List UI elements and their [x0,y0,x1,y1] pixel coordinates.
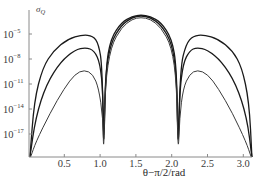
y-tick-label: 10−8 [3,52,20,65]
y-ticks: 10−510−810−1110−1410−17 [3,27,32,140]
chart: 10−510−810−1110−1410−17 0.51.01.52.02.53… [0,0,259,181]
x-tick-label: 0.5 [58,158,71,169]
x-axis-title: θ−π/2/rad [143,166,186,178]
y-tick-label: 10−14 [3,102,24,115]
x-tick-label: 1.0 [94,158,107,169]
x-tick-label: 2.5 [201,158,214,169]
y-tick-label: 10−11 [3,77,23,90]
x-tick-label: 3.0 [237,158,250,169]
series-line-2 [30,16,252,157]
series-line-3 [31,18,252,157]
y-tick-label: 10−5 [3,27,20,40]
series-line-1 [30,15,252,157]
y-tick-label: 10−17 [3,127,24,140]
plot-area [30,15,252,157]
x-tick-label: 1.5 [129,158,142,169]
y-axis-label: σQ [36,4,45,15]
